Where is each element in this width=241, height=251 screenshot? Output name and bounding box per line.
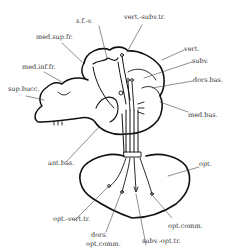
label-opt-comm: opt.comm. [168, 223, 203, 230]
label-dors-opt-comm-line2: opt.comm. [86, 241, 121, 248]
label-dors-bas: dors.bas. [193, 77, 223, 84]
label-subv: subv. [192, 58, 209, 65]
label-ant-bas: ant.bas. [48, 160, 74, 167]
label-subv-opt-tract: subv.-opt.tr. [142, 238, 181, 245]
label-sup-bucc: sup.bucc. [8, 86, 39, 93]
label-opt-vert-tract: opt.-vert.tr. [53, 216, 90, 223]
label-sfv: s.f.-v. [76, 18, 93, 25]
label-med-bas: med.bas. [188, 112, 218, 119]
label-vert-subv-tract: vert.-subv.tr. [124, 14, 165, 21]
label-vert: vert. [184, 46, 199, 53]
vertical-lobe-outline [84, 47, 164, 134]
label-opt: opt. [199, 161, 212, 168]
label-med-sup-fr: med.sup.fr. [36, 34, 73, 41]
label-dors-opt-comm-line1: dors. [91, 232, 108, 239]
label-med-inf-fr: med.inf.fr. [22, 64, 56, 71]
